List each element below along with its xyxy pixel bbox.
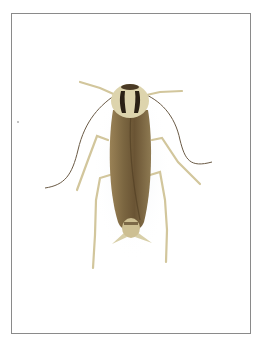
cockroach-photo — [0, 0, 264, 347]
tail — [122, 218, 140, 238]
speck — [17, 121, 19, 123]
